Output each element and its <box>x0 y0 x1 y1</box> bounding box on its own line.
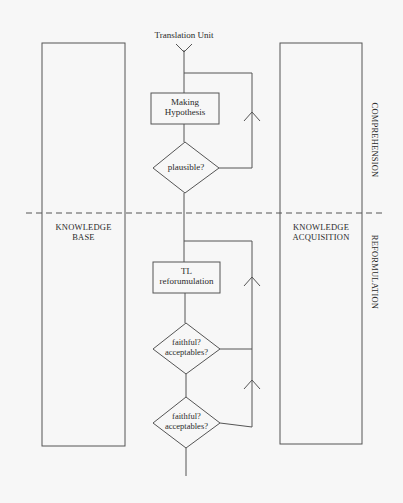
reformulation-phase-label: REFORMULATION <box>370 232 380 312</box>
faithful-1-line2: acceptables? <box>153 348 220 358</box>
plausible-label: plausible? <box>153 162 219 172</box>
tl-line1: TL <box>153 266 220 276</box>
knowledge-base-label: KNOWLEDGE BASE <box>42 223 125 243</box>
loop-comprehension <box>184 73 252 168</box>
knowledge-acquisition-label: KNOWLEDGE ACQUISITION <box>280 223 362 243</box>
flowchart-canvas: Translation Unit Making Hypothesis plaus… <box>0 0 403 503</box>
tl-line2: reforumulation <box>153 276 220 286</box>
translation-unit-label: Translation Unit <box>136 30 232 40</box>
knowledge-base-line2: BASE <box>42 233 125 243</box>
comprehension-phase-label: COMPREHENSION <box>370 100 380 180</box>
knowledge-acquisition-box <box>280 43 362 444</box>
faithful-2-line2: acceptables? <box>153 422 220 432</box>
making-hypothesis-label: Making Hypothesis <box>151 97 219 118</box>
tl-reformulation-label: TL reforumulation <box>153 266 220 287</box>
knowledge-base-box <box>42 43 125 446</box>
faithful-2-label: faithful? acceptables? <box>153 412 220 432</box>
making-hypothesis-line1: Making <box>151 97 219 107</box>
knowledge-acquisition-line2: ACQUISITION <box>280 233 362 243</box>
making-hypothesis-line2: Hypothesis <box>151 107 219 117</box>
faithful-1-label: faithful? acceptables? <box>153 338 220 358</box>
